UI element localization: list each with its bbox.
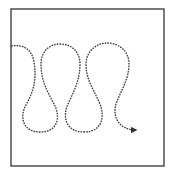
diagram-canvas (0, 0, 172, 176)
